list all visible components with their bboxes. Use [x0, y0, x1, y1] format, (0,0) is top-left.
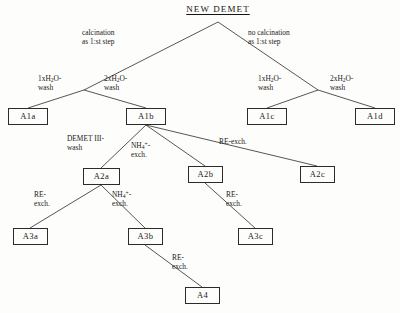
edge-label-line: 1xH2O-: [38, 74, 61, 83]
node-label: A1b: [138, 112, 154, 121]
node-box-a4[interactable]: A4: [185, 287, 220, 304]
edge-label-line: wash: [104, 83, 127, 92]
edge-label-nh4-exch-a1b: NH4+-exch.: [131, 141, 150, 159]
edge-label-calcination-left: calcinationas 1:st step: [82, 28, 114, 46]
edge-label-line: exch.: [112, 199, 131, 208]
edge-label-line: DEMET III-: [67, 134, 104, 143]
edge-branch-left-to-A1b: [84, 90, 146, 108]
edge-label-line: wash: [67, 143, 104, 152]
edge-label-line: NH4+-: [131, 141, 150, 150]
node-box-a3b[interactable]: A3b: [128, 228, 163, 245]
edge-label-line: exch.: [226, 199, 242, 208]
node-label: A4: [197, 291, 208, 300]
edge-label-line: NH4+-: [112, 190, 131, 199]
edge-label-line: as 1:st step: [248, 37, 290, 46]
edge-label-line: exch.: [34, 199, 50, 208]
node-label: A1d: [367, 112, 383, 121]
node-box-a3a[interactable]: A3a: [13, 228, 48, 245]
node-box-a1c[interactable]: A1c: [247, 108, 287, 125]
edge-label-re-exch-a4: RE-exch.: [172, 253, 188, 271]
edge-label-nh4-exch-a3b: NH4+-exch.: [112, 190, 131, 208]
edge-branch-right-to-A1c: [267, 90, 318, 108]
node-label: A3c: [248, 232, 263, 241]
node-box-a2c[interactable]: A2c: [300, 166, 335, 183]
edge-label-re-exch-a3c: RE-exch.: [226, 190, 242, 208]
edge-label-wash-2x-left: 2xH2O-wash: [104, 74, 127, 92]
edge-label-line: RE-exch.: [219, 137, 247, 146]
edge-label-wash-1x-right: 1xH2O-wash: [258, 74, 281, 92]
edge-label-re-exch-a2c: RE-exch.: [219, 137, 247, 146]
edge-label-line: exch.: [172, 262, 188, 271]
edge-label-line: RE-: [34, 190, 50, 199]
edge-label-line: RE-: [226, 190, 242, 199]
edge-label-line: wash: [258, 83, 281, 92]
node-label: A1c: [259, 112, 274, 121]
edge-label-line: as 1:st step: [82, 37, 114, 46]
node-label: A3b: [138, 232, 154, 241]
edge-layer: [0, 0, 400, 313]
edge-label-line: RE-: [172, 253, 188, 262]
node-box-a1d[interactable]: A1d: [355, 108, 395, 125]
diagram-root-title: NEW DEMET: [186, 4, 249, 14]
edge-label-line: no calcination: [248, 28, 290, 37]
node-label: A1a: [20, 112, 35, 121]
edge-label-re-exch-a3a: RE-exch.: [34, 190, 50, 208]
node-box-a2b[interactable]: A2b: [188, 166, 223, 183]
edge-label-line: exch.: [131, 150, 150, 159]
node-box-a2a[interactable]: A2a: [83, 168, 120, 185]
node-label: A2b: [198, 170, 214, 179]
node-box-a1a[interactable]: A1a: [8, 108, 48, 125]
node-label: A2c: [310, 170, 325, 179]
edge-label-wash-1x-left: 1xH2O-wash: [38, 74, 61, 92]
process-tree-diagram: NEW DEMET A1aA1bA1cA1dA2aA2bA2cA3aA3bA3c…: [0, 0, 400, 313]
edge-label-wash-2x-right: 2xH2O-wash: [330, 74, 353, 92]
edge-label-line: calcination: [82, 28, 114, 37]
edge-label-line: wash: [38, 83, 61, 92]
node-label: A3a: [23, 232, 38, 241]
edge-label-no-calcination-right: no calcinationas 1:st step: [248, 28, 290, 46]
node-box-a3c[interactable]: A3c: [238, 228, 273, 245]
node-box-a1b[interactable]: A1b: [126, 108, 166, 125]
edge-label-line: 2xH2O-: [104, 74, 127, 83]
edge-label-line: 1xH2O-: [258, 74, 281, 83]
edge-A1b-to-A2b: [146, 125, 205, 166]
edge-label-line: 2xH2O-: [330, 74, 353, 83]
edge-branch-right-to-A1d: [318, 90, 375, 108]
edge-label-line: wash: [330, 83, 353, 92]
edge-label-demet-iii-wash: DEMET III-wash: [67, 134, 104, 152]
edge-branch-left-to-A1a: [28, 90, 84, 108]
node-label: A2a: [94, 172, 109, 181]
